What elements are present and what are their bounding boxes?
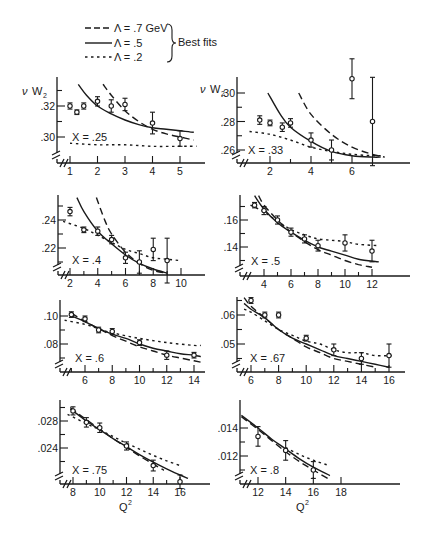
ylabel-w: W — [32, 85, 43, 97]
x-tick-label: 4 — [95, 277, 101, 289]
data-marker — [178, 136, 182, 140]
data-marker — [263, 313, 267, 317]
data-marker — [82, 228, 86, 232]
data-marker — [96, 229, 100, 233]
x-tick-label: 6 — [82, 374, 88, 386]
data-marker — [151, 463, 155, 467]
data-point — [252, 202, 257, 207]
data-point — [68, 103, 73, 109]
fit-curve-solid — [78, 84, 194, 132]
legend-brace — [167, 24, 176, 62]
x-tick-label: 12 — [366, 278, 378, 290]
panel-4: 4681012.14.16X = .5 — [223, 195, 410, 290]
y-tick-label: .16 — [223, 214, 238, 226]
data-marker — [68, 104, 72, 108]
data-point — [137, 340, 142, 346]
data-point — [262, 312, 267, 318]
data-point — [350, 59, 355, 99]
data-marker — [268, 121, 272, 125]
data-marker — [95, 99, 99, 103]
legend-label-dotted: Λ = .2 — [114, 51, 142, 63]
data-marker — [165, 353, 169, 357]
data-point — [123, 98, 128, 110]
x-tick-label: 2 — [67, 277, 73, 289]
x-tick-label: 16 — [383, 374, 395, 386]
fit-curve-solid — [71, 316, 200, 357]
y-tick-label: .22 — [41, 242, 56, 254]
data-marker — [109, 104, 113, 108]
data-marker — [262, 208, 266, 212]
data-marker — [75, 110, 79, 114]
data-marker — [123, 102, 127, 106]
x-tick-label: 1 — [67, 165, 73, 177]
y-tick-label: .32 — [40, 100, 55, 112]
panel-3: 246810.22.24X = .4 — [41, 195, 205, 289]
data-marker — [252, 203, 256, 207]
y-axis-break — [55, 472, 63, 480]
data-point — [280, 123, 285, 132]
data-marker — [110, 329, 114, 333]
data-marker — [350, 77, 354, 81]
data-marker — [151, 247, 155, 251]
x-tick-label: 8 — [276, 374, 282, 386]
fit-curve-solid — [255, 196, 379, 262]
panel-label: X = .6 — [75, 352, 104, 364]
panel-label: X = .25 — [72, 131, 107, 143]
data-marker — [304, 336, 308, 340]
ylabel-sub: 2 — [43, 92, 47, 99]
data-marker — [124, 444, 128, 448]
y-tick-label: .05 — [220, 338, 235, 350]
x-tick-label: 8 — [109, 374, 115, 386]
y-axis-break — [55, 360, 63, 368]
y-axis-break — [232, 360, 240, 368]
x-tick-label: 6 — [248, 374, 254, 386]
data-point — [387, 344, 392, 367]
data-marker — [83, 317, 87, 321]
x-tick-label: 6 — [123, 277, 129, 289]
panel-label: X = .75 — [72, 464, 107, 476]
xlabel-sup: 2 — [128, 499, 132, 506]
y-axis-break — [53, 263, 61, 271]
data-marker — [69, 312, 73, 316]
legend-label-dashed: Λ = .7 GeV — [114, 22, 168, 34]
x-tick-label: 6 — [288, 278, 294, 290]
x-tick-label: 18 — [335, 486, 347, 498]
data-marker — [68, 209, 72, 213]
data-point — [304, 335, 309, 341]
data-point — [249, 298, 254, 304]
panel-label: X = .4 — [72, 254, 101, 266]
panel-2: 246.26.28.30X = .33 — [220, 59, 410, 177]
data-point — [359, 353, 364, 365]
data-point — [178, 131, 183, 147]
panel-7: 810121416.024.028X = .75 — [38, 400, 210, 498]
panel-5: 68101214.08.10X = .6 — [43, 300, 205, 386]
data-point — [164, 351, 169, 359]
data-point — [331, 344, 336, 356]
data-marker — [192, 353, 196, 357]
y-tick-label: .012 — [218, 450, 239, 462]
data-point — [74, 110, 79, 115]
y-tick-label: .26 — [220, 144, 235, 156]
data-point — [343, 235, 348, 251]
data-point — [311, 462, 316, 479]
data-marker — [332, 348, 336, 352]
x-tick-label: 12 — [252, 486, 264, 498]
y-tick-label: .08 — [43, 338, 58, 350]
data-point — [151, 238, 156, 260]
data-marker — [316, 243, 320, 247]
data-point — [81, 227, 86, 233]
panel-label: X = .67 — [250, 352, 285, 364]
xlabel-q: Q — [119, 501, 128, 513]
data-point — [370, 77, 375, 165]
x-tick-label: 10 — [175, 277, 187, 289]
x-tick-label: 10 — [94, 486, 106, 498]
x-tick-label: 6 — [349, 165, 355, 177]
data-marker — [256, 434, 260, 438]
data-marker — [84, 420, 88, 424]
x-tick-label: 14 — [280, 486, 292, 498]
data-point — [370, 240, 375, 262]
data-marker — [311, 468, 315, 472]
data-marker — [370, 119, 374, 123]
x-tick-label: 2 — [95, 165, 101, 177]
data-marker — [288, 121, 292, 125]
